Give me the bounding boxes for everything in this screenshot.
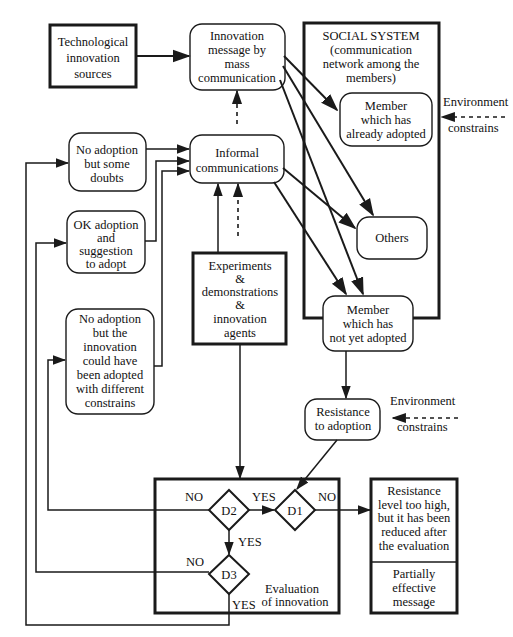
mass-comm-line: message by xyxy=(208,43,267,57)
experiments-line: agents xyxy=(224,326,256,340)
tech-sources-line: Technological xyxy=(58,35,129,49)
ok-adoption-line: and xyxy=(97,231,116,245)
experiments-box: Experiments & demonstrations & innovatio… xyxy=(193,253,286,344)
ok-adoption-line: suggestion xyxy=(79,244,133,258)
informal-communications-box: Informal communications xyxy=(190,135,284,183)
env-bottom-label2: constrains xyxy=(397,420,448,434)
others-box: Others xyxy=(357,217,427,259)
env-bottom-label: Environment xyxy=(390,394,456,408)
result-bottom-line: effective xyxy=(392,581,436,595)
constraints-line: with different xyxy=(76,382,145,396)
member-adopted-line: Member xyxy=(365,99,408,113)
member-adopted-line: which has xyxy=(361,113,411,127)
social-system-line: network among the xyxy=(323,57,420,71)
experiments-line: innovation xyxy=(213,312,267,326)
member-adopted-line: already adopted xyxy=(346,127,426,141)
constraints-line: constrains xyxy=(85,396,136,410)
mass-comm-line: communication xyxy=(198,71,277,85)
ok-adoption-line: to adopt xyxy=(86,257,127,271)
result-bottom-line: Partially xyxy=(393,567,436,581)
result-top-line: Resistance xyxy=(387,484,441,498)
result-top-line: level too high, xyxy=(378,498,450,512)
result-top-line: reduced after xyxy=(381,525,447,539)
innovation-diffusion-diagram: Technological innovation sources Innovat… xyxy=(0,0,513,637)
constraints-line: innovation xyxy=(83,340,137,354)
doubts-line: but some xyxy=(84,157,130,171)
member-not-yet-adopted-box: Member which has not yet adopted xyxy=(323,296,413,351)
d1-label: D1 xyxy=(287,504,302,518)
doubts-line: doubts xyxy=(90,171,123,185)
resistance-line: to adoption xyxy=(315,419,372,433)
result-bottom-line: message xyxy=(393,595,436,609)
d2-down-yes-label: YES xyxy=(238,535,262,549)
mass-comm-line: mass xyxy=(225,57,250,71)
d3-no-label: NO xyxy=(186,555,204,569)
social-system-line: (communication xyxy=(330,43,413,57)
constraints-line: but the xyxy=(93,326,128,340)
no-adoption-doubts-box: No adoption but some doubts xyxy=(69,133,146,191)
environment-constraints-top: Environment constrains xyxy=(442,95,509,135)
result-top-line: but it has been xyxy=(378,511,451,525)
arrow-ok-to-informal xyxy=(145,161,189,241)
experiments-line: & xyxy=(235,272,245,286)
tech-sources-line: innovation xyxy=(66,51,120,65)
mass-communication-box: Innovation message by mass communication xyxy=(190,24,285,90)
informal-line: communications xyxy=(196,161,279,175)
arrow-informal-to-others xyxy=(283,168,355,228)
constraints-line: could have xyxy=(83,354,138,368)
evaluation-box: Evaluation of innovation D2 D1 D3 NO YES… xyxy=(155,479,339,613)
social-system-title: SOCIAL SYSTEM xyxy=(322,29,419,43)
social-system-line: members) xyxy=(346,71,396,85)
no-adoption-constraints-box: No adoption but the innovation could hav… xyxy=(66,309,154,414)
experiments-line: Experiments xyxy=(208,259,271,273)
resistance-line: Resistance xyxy=(316,405,370,419)
evaluation-label: Evaluation xyxy=(265,582,320,596)
constraints-line: been adopted xyxy=(77,368,144,382)
d2-label: D2 xyxy=(221,504,236,518)
mass-comm-line: Innovation xyxy=(210,29,265,43)
d2-yes-label: YES xyxy=(252,490,276,504)
member-not-adopted-line: Member xyxy=(347,303,390,317)
result-box: Resistance level too high, but it has be… xyxy=(371,479,457,613)
environment-constraints-bottom: Environment constrains xyxy=(390,394,458,434)
d3-label: D3 xyxy=(221,568,236,582)
experiments-line: demonstrations xyxy=(202,285,279,299)
experiments-line: & xyxy=(235,298,245,312)
informal-line: Informal xyxy=(215,146,259,160)
env-top-label: Environment xyxy=(443,95,509,109)
tech-sources-line: sources xyxy=(74,67,112,81)
result-top-line: the evaluation xyxy=(379,539,450,553)
evaluation-label: of innovation xyxy=(261,595,329,609)
d3-yes-label: YES xyxy=(232,598,256,612)
doubts-line: No adoption xyxy=(76,143,139,157)
ok-adoption-box: OK adoption and suggestion to adopt xyxy=(67,211,145,273)
social-system-box: SOCIAL SYSTEM (communication network amo… xyxy=(304,23,439,318)
constraints-line: No adoption xyxy=(79,312,142,326)
member-already-adopted-box: Member which has already adopted xyxy=(340,93,432,146)
env-top-label2: constrains xyxy=(448,121,499,135)
member-not-adopted-line: not yet adopted xyxy=(329,331,407,345)
others-label: Others xyxy=(375,231,408,245)
ok-adoption-line: OK adoption xyxy=(74,218,140,232)
resistance-to-adoption-box: Resistance to adoption xyxy=(305,399,380,440)
d2-no-label: NO xyxy=(185,490,203,504)
member-not-adopted-line: which has xyxy=(343,317,393,331)
tech-sources-box: Technological innovation sources xyxy=(50,25,136,87)
d1-no-label: NO xyxy=(318,490,336,504)
arrow-constraints-to-informal xyxy=(154,171,189,366)
